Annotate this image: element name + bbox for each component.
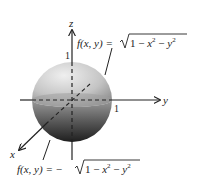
z-tick-label: 1 [65, 50, 70, 61]
lower-formula-lhs: f(x, y) = − [17, 163, 63, 176]
y-axis-label: y [162, 94, 168, 106]
x-axis-outer [19, 122, 48, 150]
x-axis-label: x [9, 148, 15, 160]
lower-leader-line [43, 140, 50, 160]
z-axis-label: z [68, 17, 74, 29]
lower-formula: f(x, y) = − 1 − x2 − y2 [17, 160, 140, 176]
lower-formula-radicand: 1 − x2 − y2 [85, 162, 131, 175]
upper-formula: f(x, y) = 1 − x2 − y2 [77, 34, 187, 50]
upper-formula-lhs: f(x, y) = [77, 37, 113, 50]
upper-leader-line [105, 48, 112, 75]
y-tick-label: 1 [114, 103, 119, 114]
upper-formula-radicand: 1 − x2 − y2 [130, 36, 176, 49]
sphere-diagram: z y x 1 1 f(x, y) = 1 − x2 − y2 f(x, y) … [0, 0, 197, 184]
